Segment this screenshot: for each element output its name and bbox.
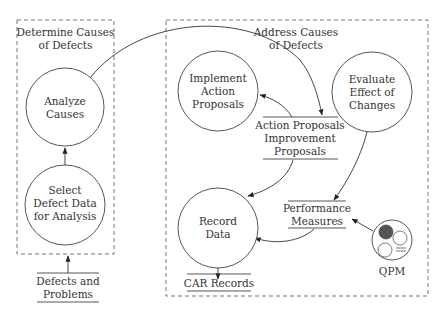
process-label: Analyze: [43, 95, 86, 107]
process-label: Data: [205, 228, 230, 240]
process-record-data: Record Data: [178, 188, 258, 268]
process-select-defect-data: Select Defect Data for Analysis: [25, 165, 105, 245]
store-label: CAR Records: [184, 277, 254, 289]
dfd-diagram: Determine Causes of Defects Address Caus…: [0, 0, 442, 313]
process-analyze-causes: Analyze Causes: [26, 68, 104, 146]
flow-evaluate-to-measures: [334, 132, 367, 200]
group-title-line-1: Address Causes: [253, 26, 338, 38]
process-label: Defect Data: [33, 197, 96, 209]
process-label: Select: [48, 184, 82, 196]
process-label: Record: [199, 215, 237, 227]
process-label: Changes: [349, 99, 395, 111]
store-label: Improvement: [264, 132, 336, 144]
flow-proposals-to-record: [248, 160, 293, 196]
group-title-line-2: of Defects: [39, 39, 93, 51]
group-title-line-1: Determine Causes: [17, 26, 115, 38]
process-label: Effect of: [350, 86, 396, 98]
store-label: Performance: [283, 202, 351, 214]
process-implement-action-proposals: Implement Action Proposals: [178, 51, 258, 131]
flow-proposals-to-implement: [260, 95, 292, 117]
process-label: Action: [200, 85, 235, 97]
store-label: Action Proposals: [254, 119, 344, 131]
qpm-label: QPM: [379, 265, 406, 277]
store-defects-and-problems: Defects and Problems: [36, 273, 100, 302]
qpm-external-entity: QPM: [372, 220, 412, 277]
flow-qpm-to-measures: [352, 219, 373, 231]
store-label: Proposals: [274, 145, 326, 157]
process-label: Proposals: [192, 98, 244, 110]
store-car-records: CAR Records: [184, 274, 254, 291]
process-label: for Analysis: [34, 210, 97, 222]
store-label: Measures: [291, 215, 343, 227]
store-label: Defects and: [36, 275, 100, 287]
flow-measures-to-record: [255, 229, 314, 242]
process-label: Causes: [46, 108, 84, 120]
process-label: Evaluate: [349, 73, 396, 85]
process-label: Implement: [189, 72, 247, 84]
store-performance-measures: Performance Measures: [283, 201, 351, 228]
group-title-line-2: of Defects: [269, 39, 323, 51]
store-action-improvement-proposals: Action Proposals Improvement Proposals: [254, 117, 344, 159]
store-label: Problems: [43, 288, 93, 300]
